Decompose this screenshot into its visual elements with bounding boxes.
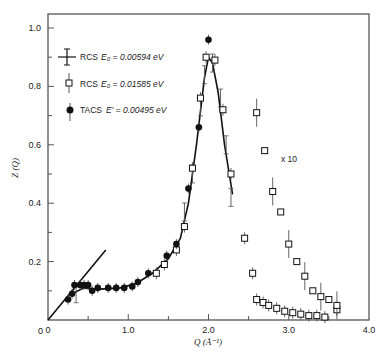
data-point-circle (173, 241, 180, 248)
data-point-circle (196, 124, 203, 131)
data-point-square (212, 57, 218, 63)
data-point-square (203, 54, 209, 60)
data-point-circle (71, 282, 78, 289)
data-point-square (294, 259, 300, 265)
data-point-square (306, 313, 312, 319)
data-point-square (181, 224, 187, 230)
data-point-square (189, 165, 195, 171)
data-point-circle (113, 285, 120, 292)
x-tick-label: 3.0 (282, 325, 295, 335)
data-point-square (197, 95, 203, 101)
data-point-square (302, 273, 308, 279)
data-point-square (228, 171, 234, 177)
data-point-square (282, 308, 288, 314)
legend-label: RCS (80, 79, 98, 89)
data-point-circle (65, 296, 72, 303)
y-tick-label: 0 (38, 326, 43, 336)
y-tick-label: 1.0 (28, 23, 41, 33)
data-point-square (260, 299, 266, 305)
data-point-square (250, 270, 256, 276)
data-point-square (278, 209, 284, 215)
x-axis-title: Q (Å⁻¹) (194, 337, 222, 347)
data-point-square (262, 148, 268, 154)
data-point-square (318, 294, 324, 300)
data-point-circle (185, 185, 192, 192)
x-tick-label: 1.0 (122, 325, 135, 335)
legend: RCS E₀ = 0.00594 eV RCS E₀ = 0.01585 eV … (58, 49, 168, 121)
y-tick-labels: 00.20.40.60.81.0 (28, 23, 43, 336)
data-point-square (242, 235, 248, 241)
data-point-circle (105, 285, 112, 292)
data-point-circle (121, 285, 128, 292)
axis-ticks (48, 28, 329, 320)
data-point-square (266, 302, 272, 308)
data-point-square (153, 270, 159, 276)
x-tick-labels: 01.02.03.04.0 (45, 325, 375, 335)
data-point-square (254, 110, 260, 116)
legend-label: TACS (80, 105, 102, 115)
data-point-circle (135, 279, 142, 286)
data-point-circle (205, 36, 212, 43)
y-tick-label: 0.8 (28, 81, 41, 91)
data-point-circle (129, 283, 136, 290)
legend-item-rcs-00594: RCS E₀ = 0.00594 eV (58, 49, 165, 65)
data-point-circle (163, 252, 170, 259)
legend-param: E′ = 0.00495 eV (106, 105, 168, 115)
legend-item-tacs: TACS E′ = 0.00495 eV (67, 103, 168, 121)
legend-item-rcs-01585: RCS E₀ = 0.01585 eV (66, 73, 165, 93)
data-point-circle (69, 290, 76, 297)
x-tick-label: 4.0 (363, 325, 376, 335)
data-point-circle (145, 270, 152, 277)
fit-line (72, 57, 233, 294)
data-point-square (290, 310, 296, 316)
y-tick-label: 0.4 (28, 198, 41, 208)
data-point-square (274, 305, 280, 311)
data-point-square (310, 288, 316, 294)
legend-param: E₀ = 0.01585 eV (101, 79, 165, 89)
x10-annotation: x 10 (281, 154, 297, 164)
data-point-square (254, 297, 260, 303)
data-point-square (322, 314, 328, 320)
data-point-square (334, 302, 340, 308)
data-points (65, 35, 340, 323)
data-point-square (220, 107, 226, 113)
legend-param: E₀ = 0.00594 eV (101, 52, 165, 62)
x-tick-label: 2.0 (202, 325, 215, 335)
data-point-square (161, 262, 167, 268)
y-axis-title: Z (Q) (10, 158, 20, 178)
chart: 01.02.03.04.0 00.20.40.60.81.0 Q (Å⁻¹) Z… (0, 0, 387, 360)
data-point-square (298, 311, 304, 317)
data-point-square (270, 189, 276, 195)
data-point-circle (94, 285, 101, 292)
data-point-circle (85, 282, 92, 289)
x-tick-label: 0 (45, 325, 50, 335)
legend-label: RCS (80, 52, 98, 62)
data-point-square (314, 313, 320, 319)
data-point-circle (89, 288, 96, 295)
data-point-square (326, 297, 332, 303)
y-tick-label: 0.2 (28, 257, 41, 267)
y-tick-label: 0.6 (28, 140, 41, 150)
data-point-square (286, 241, 292, 247)
